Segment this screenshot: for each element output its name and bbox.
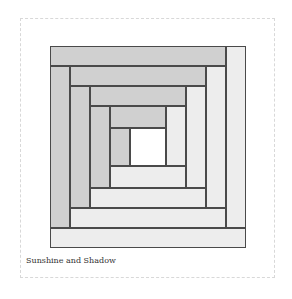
quilt-strip-left-2 [70,86,90,208]
quilt-strip-bottom-3 [90,188,206,208]
quilt-strip-left-3 [90,106,110,188]
log-cabin-quilt-block [50,46,246,248]
quilt-strip-right-4 [166,106,186,166]
figure-caption: Sunshine and Shadow [26,256,116,265]
quilt-strip-top-3 [90,86,186,106]
quilt-strip-bottom-4 [110,166,186,188]
quilt-strip-top-1 [50,46,226,66]
quilt-strip-right-3 [186,86,206,188]
quilt-strip-bottom-1 [50,228,246,248]
quilt-strip-center [130,128,166,166]
quilt-strip-left-4 [110,128,130,166]
quilt-strip-right-2 [206,66,226,208]
quilt-strip-top-4 [110,106,166,128]
quilt-strip-left-1 [50,66,70,228]
quilt-strip-top-2 [70,66,206,86]
quilt-strip-bottom-2 [70,208,226,228]
quilt-strip-right-1 [226,46,246,228]
